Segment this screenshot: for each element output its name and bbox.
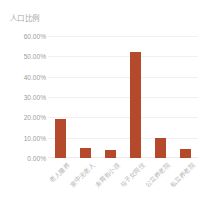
y-axis-tick-label: 40.00%	[2, 73, 46, 80]
gridline	[48, 77, 198, 78]
x-axis-baseline	[48, 157, 198, 158]
bar[interactable]	[80, 148, 91, 158]
y-axis-tick-label: 10.00%	[2, 134, 46, 141]
y-axis-tick-label: 30.00%	[2, 94, 46, 101]
y-axis-tick-label: 50.00%	[2, 53, 46, 60]
x-axis-tick-label: 私立养老院	[168, 161, 196, 189]
x-axis-tick-label: 公立养老院	[143, 161, 171, 189]
x-axis: 老人赡养家中无老人未育有小孩与子女同住公立养老院私立养老院	[48, 159, 198, 209]
bar[interactable]	[180, 149, 191, 158]
bar[interactable]	[55, 119, 66, 158]
gridline	[48, 138, 198, 139]
chart-title: 人口比例	[10, 12, 39, 23]
x-axis-tick-label: 家中无老人	[68, 161, 96, 189]
y-axis-tick-label: 0.00%	[2, 155, 46, 162]
y-axis: 0.00%10.00%20.00%30.00%40.00%50.00%60.00…	[0, 36, 46, 158]
y-axis-tick-label: 60.00%	[2, 33, 46, 40]
gridline	[48, 97, 198, 98]
bar-chart: 人口比例 0.00%10.00%20.00%30.00%40.00%50.00%…	[0, 0, 210, 210]
bar[interactable]	[130, 52, 141, 158]
bar[interactable]	[105, 150, 116, 158]
plot-area	[48, 36, 198, 158]
gridline	[48, 36, 198, 37]
gridline	[48, 117, 198, 118]
bar[interactable]	[155, 138, 166, 158]
x-axis-tick-label: 与子女同住	[118, 161, 146, 189]
x-axis-tick-label: 未育有小孩	[93, 161, 121, 189]
gridline	[48, 56, 198, 57]
x-axis-tick-label: 老人赡养	[47, 161, 71, 185]
y-axis-tick-label: 20.00%	[2, 114, 46, 121]
